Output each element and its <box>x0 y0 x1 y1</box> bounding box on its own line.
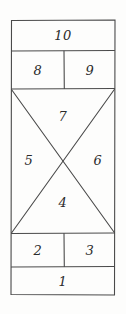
divider-below-2-3 <box>12 267 115 268</box>
divider-below-cross <box>12 233 115 234</box>
region-label-2: 2 <box>34 243 43 258</box>
region-label-6: 6 <box>94 153 103 168</box>
divider-below-8-9 <box>12 89 115 90</box>
region-label-1: 1 <box>59 274 68 289</box>
partition-diagram-svg <box>0 0 126 314</box>
region-label-8: 8 <box>34 63 43 78</box>
region-label-5: 5 <box>25 153 34 168</box>
diagram-canvas: 10 8 9 7 5 6 4 2 3 1 <box>0 0 126 314</box>
region-label-4: 4 <box>59 195 68 210</box>
region-label-10: 10 <box>54 28 72 43</box>
region-label-3: 3 <box>86 243 95 258</box>
region-label-7: 7 <box>59 109 68 124</box>
region-label-9: 9 <box>86 63 95 78</box>
divider-below-10 <box>12 51 115 52</box>
